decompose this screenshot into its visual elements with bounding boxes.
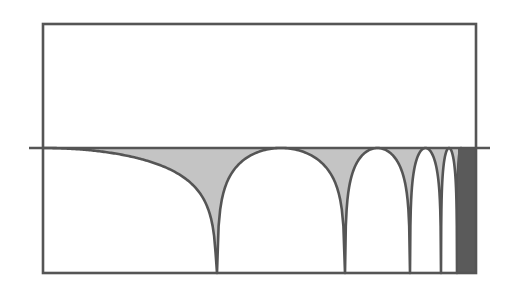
magnitude-response-figure <box>0 0 513 292</box>
shaded-area <box>43 148 465 273</box>
dense-lobe-band <box>458 148 476 273</box>
response-plot <box>0 0 513 292</box>
